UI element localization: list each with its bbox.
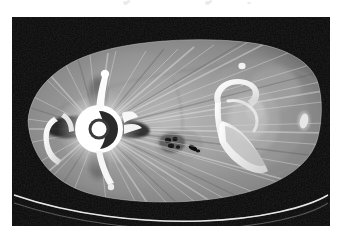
residue-mark <box>209 0 212 3</box>
residue-mark <box>247 2 251 4</box>
caption-zone <box>0 226 341 234</box>
cropped-text-residue <box>0 0 341 6</box>
ct-scan-image <box>12 17 330 226</box>
ct-scan-canvas <box>12 17 330 226</box>
ct-image-page <box>0 0 341 234</box>
image-noise-overlay <box>12 17 330 226</box>
residue-mark <box>127 0 130 3</box>
